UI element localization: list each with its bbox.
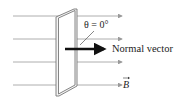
normal-vector-label: Normal vector: [112, 44, 173, 55]
angle-label: θ = 0°: [84, 20, 108, 30]
magnetic-field-label: B: [123, 80, 129, 90]
angle-leader-line: [80, 31, 94, 45]
loop-frame: [56, 9, 77, 96]
